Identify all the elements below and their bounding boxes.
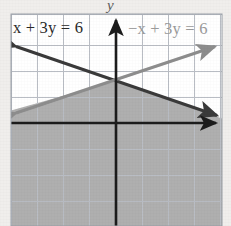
equation-label-left: x + 3y = 6 — [13, 20, 83, 37]
y-axis-label: y — [107, 0, 114, 13]
equation-label-right: −x + 3y = 6 — [128, 21, 208, 38]
graph-figure: y x + 3y = 6 −x + 3y = 6 — [0, 0, 231, 226]
